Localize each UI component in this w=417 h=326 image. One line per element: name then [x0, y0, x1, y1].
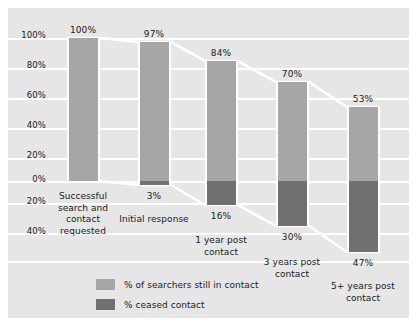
value-label-ceased-1: 3% — [126, 191, 182, 201]
ytick-neg40: 40% — [12, 226, 46, 236]
category-label-4: 5+ years post contact — [323, 281, 403, 304]
ytick-0: 0% — [12, 174, 46, 184]
value-label-in-contact-2: 84% — [193, 48, 249, 58]
value-label-in-contact-0: 100% — [55, 25, 111, 35]
category-label-3: 3 years post contact — [252, 257, 332, 280]
value-label-ceased-4: 47% — [335, 258, 391, 268]
bar-ceased-1 — [138, 181, 171, 185]
value-label-in-contact-1: 97% — [126, 29, 182, 39]
bar-in-contact-1 — [138, 42, 171, 181]
ytick-neg20: 20% — [12, 196, 46, 206]
ytick-100: 100% — [12, 30, 46, 40]
value-label-in-contact-3: 70% — [264, 69, 320, 79]
value-label-in-contact-4: 53% — [335, 94, 391, 104]
funnel-bar-chart: 100% 80% 60% 40% 20% 0% 20% 40% 100% 97%… — [8, 8, 409, 318]
bar-in-contact-2 — [205, 61, 238, 181]
category-label-1: Initial response — [114, 214, 194, 226]
legend-label-in-contact: % of searchers still in contact — [124, 280, 259, 290]
value-label-ceased-3: 30% — [264, 232, 320, 242]
bar-ceased-3 — [276, 181, 309, 226]
legend-swatch-in-contact — [96, 279, 115, 290]
bar-in-contact-4 — [347, 107, 380, 181]
ytick-80: 80% — [12, 60, 46, 70]
legend-item-in-contact: % of searchers still in contact — [96, 276, 259, 293]
bar-in-contact-0 — [67, 38, 100, 181]
bar-ceased-2 — [205, 181, 238, 205]
legend-swatch-ceased — [96, 299, 115, 310]
category-label-2: 1 year post contact — [181, 235, 261, 258]
chart-legend: % of searchers still in contact % ceased… — [96, 276, 259, 316]
legend-label-ceased: % ceased contact — [124, 300, 205, 310]
ytick-60: 60% — [12, 90, 46, 100]
ytick-40: 40% — [12, 120, 46, 130]
ytick-20: 20% — [12, 150, 46, 160]
bar-ceased-4 — [347, 181, 380, 252]
legend-item-ceased: % ceased contact — [96, 296, 259, 313]
value-label-ceased-2: 16% — [193, 211, 249, 221]
category-label-0: Successful search and contact requested — [43, 191, 123, 237]
bar-in-contact-3 — [276, 82, 309, 181]
